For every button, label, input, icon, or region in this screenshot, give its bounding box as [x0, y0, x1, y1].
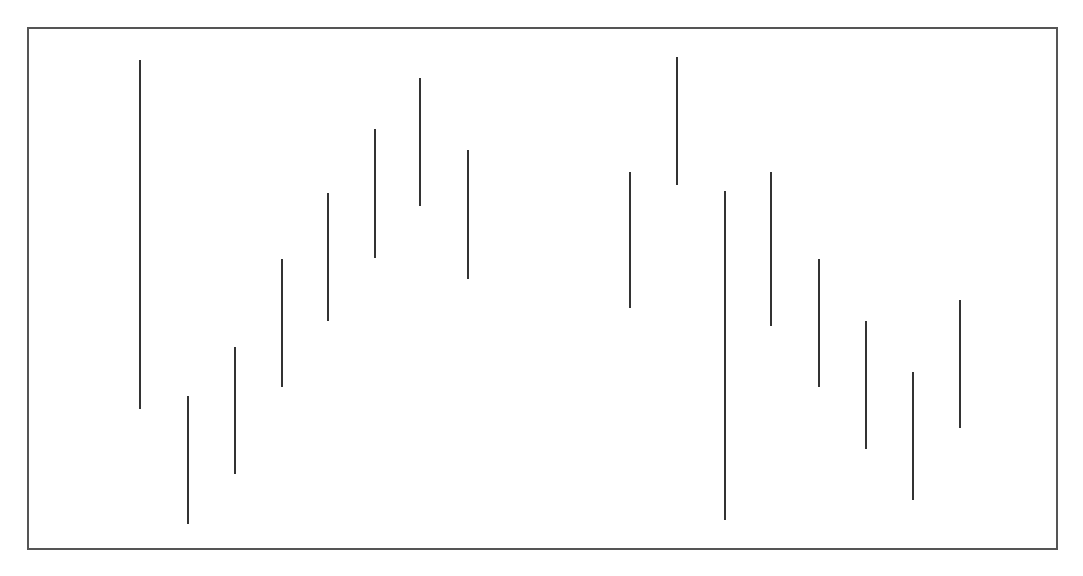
range-bars-plot [0, 0, 1083, 576]
